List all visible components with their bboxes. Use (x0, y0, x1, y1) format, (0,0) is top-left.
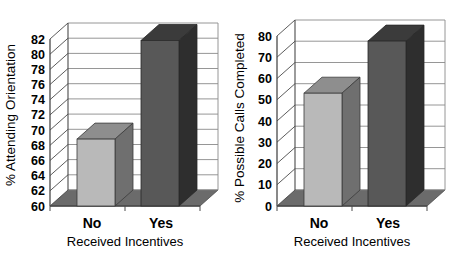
y-tick-label: 50 (258, 93, 272, 107)
bar-side-face (342, 77, 360, 206)
y-tick-label: 10 (258, 178, 272, 192)
bar-front-face (368, 41, 406, 206)
y-tick-label: 60 (31, 200, 45, 214)
y-tick-label: 68 (31, 139, 45, 153)
y-tick-label: 80 (258, 30, 272, 44)
y-tick-labels-left: 82 80 78 76 74 72 70 68 66 64 62 60 (31, 33, 45, 214)
y-tick-label: 60 (258, 72, 272, 86)
y-tick-label: 82 (31, 33, 45, 47)
bar-right-yes[interactable] (368, 25, 424, 206)
chart-svg-left: % Attending Orientation (0, 0, 229, 263)
y-axis-title-left: % Attending Orientation (3, 44, 18, 186)
bar-side-face (179, 25, 197, 207)
y-tick-label: 74 (31, 93, 45, 107)
y-tick-label: 70 (258, 51, 272, 65)
plot-area-right (277, 20, 445, 211)
chart-svg-right: % Possible Calls Completed (229, 0, 458, 263)
y-tick-label: 76 (31, 78, 45, 92)
category-label-yes: Yes (149, 215, 173, 231)
left-side-wall-left (50, 23, 68, 206)
bar-front-face (141, 41, 179, 207)
category-label-no: No (310, 215, 329, 231)
x-axis-title-right: Received Incentives (294, 234, 411, 249)
chart-panel-attending-orientation: % Attending Orientation (0, 0, 229, 263)
y-tick-labels-right: 80 70 60 50 40 30 20 10 0 (258, 30, 272, 214)
figure-two-panel-bar-charts: % Attending Orientation (0, 0, 459, 263)
y-tick-label: 20 (258, 157, 272, 171)
chart-panel-calls-completed: % Possible Calls Completed (229, 0, 458, 263)
plot-area-left (50, 23, 218, 211)
y-tick-label: 72 (31, 108, 45, 122)
x-tick-marks-right (277, 206, 427, 211)
x-axis-title-left: Received Incentives (67, 234, 184, 249)
bar-side-face (406, 25, 424, 206)
category-label-no: No (83, 215, 102, 231)
y-tick-label: 64 (31, 169, 45, 183)
bar-right-no[interactable] (304, 77, 360, 206)
bar-left-yes[interactable] (141, 25, 197, 207)
y-tick-label: 40 (258, 115, 272, 129)
bar-front-face (304, 93, 342, 206)
y-tick-label: 66 (31, 154, 45, 168)
bar-front-face (77, 139, 115, 206)
y-tick-label: 80 (31, 48, 45, 62)
bar-left-no[interactable] (77, 123, 133, 206)
category-label-yes: Yes (376, 215, 400, 231)
x-tick-marks-left (50, 206, 200, 211)
y-tick-label: 0 (265, 200, 272, 214)
y-tick-label: 70 (31, 124, 45, 138)
y-axis-title-right: % Possible Calls Completed (232, 33, 247, 203)
y-tick-label: 62 (31, 184, 45, 198)
y-tick-label: 30 (258, 136, 272, 150)
y-tick-label: 78 (31, 63, 45, 77)
